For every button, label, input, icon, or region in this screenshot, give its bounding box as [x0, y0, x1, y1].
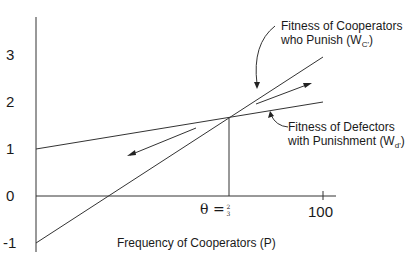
- wc-label: Fitness of Cooperators who Punish (WC'): [281, 19, 402, 52]
- wc-close: ): [369, 33, 373, 47]
- theta-num: 2: [227, 203, 231, 210]
- arrow-left-head-icon: [127, 150, 136, 156]
- wc-subscript: C': [362, 40, 369, 49]
- wd-label-line2: with Punishment (W: [288, 134, 395, 148]
- theta-fraction: 23: [227, 203, 231, 217]
- y-tick-1: 1: [6, 140, 14, 157]
- wd-label-line1: Fitness of Defectors: [288, 120, 395, 134]
- wd-callout-head-icon: [268, 111, 274, 118]
- wc-callout-head-icon: [254, 82, 260, 89]
- y-tick-2: 2: [6, 93, 14, 110]
- theta-den: 3: [227, 210, 231, 217]
- theta-label: θ =23: [200, 201, 230, 217]
- arrow-right-head-icon: [303, 83, 312, 88]
- y-tick-3: 3: [6, 46, 14, 63]
- wc-line: [36, 57, 323, 243]
- wd-close: ): [401, 134, 405, 148]
- wd-label: Fitness of Defectors with Punishment (Wd…: [288, 120, 405, 153]
- y-tick-neg1: -1: [3, 234, 16, 251]
- y-tick-0: 0: [6, 187, 14, 204]
- wd-line: [36, 102, 323, 149]
- theta-text: θ =: [200, 201, 225, 217]
- wd-callout-arrow: [271, 115, 288, 127]
- x-tick-100-label: 100: [308, 203, 333, 220]
- x-axis-label: Frequency of Cooperators (P): [117, 236, 276, 250]
- wc-callout-arrow: [256, 26, 275, 84]
- arrow-right: [256, 84, 309, 104]
- wc-label-line1: Fitness of Cooperators: [281, 19, 402, 33]
- wc-label-line2: who Punish (W: [281, 33, 362, 47]
